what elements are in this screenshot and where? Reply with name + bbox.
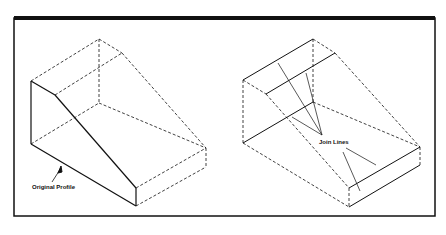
original-profile-label: Original Profile bbox=[32, 184, 75, 190]
top-bar bbox=[14, 16, 435, 20]
frame bbox=[14, 18, 435, 216]
join-lines-label: Join Lines bbox=[319, 139, 349, 145]
join-lines-shape bbox=[243, 39, 420, 207]
original-profile-shape bbox=[31, 39, 206, 206]
diagram bbox=[0, 0, 446, 235]
